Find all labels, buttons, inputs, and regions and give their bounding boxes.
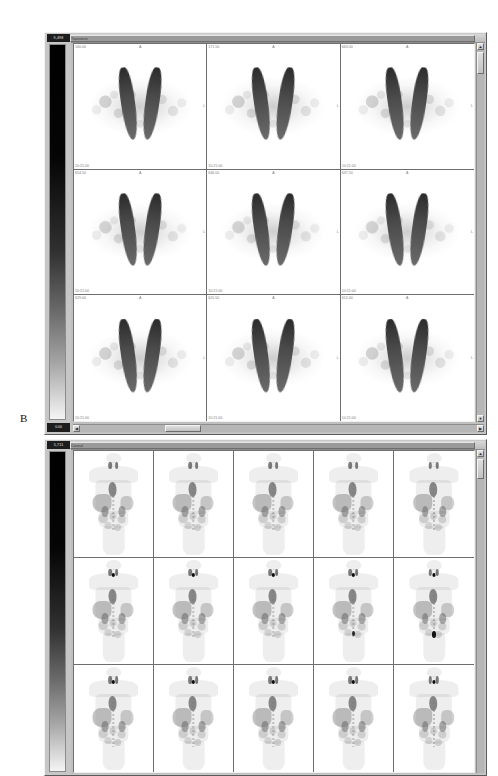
image-cell[interactable]: 654.50AL10:21:00: [74, 170, 207, 296]
bowel-uptake: [177, 512, 210, 534]
whole-body-outline: [409, 453, 459, 555]
organ-uptake-layer: [169, 453, 218, 555]
transverse-colorbar-min-label: 0.00: [47, 423, 70, 432]
image-cell[interactable]: [394, 665, 474, 772]
image-cell[interactable]: 629.00AL10:21:00: [74, 295, 207, 421]
image-cell[interactable]: 160.00AL10:21:00: [74, 44, 207, 170]
transverse-slice-image: [207, 170, 339, 295]
coronal-slice-image: [74, 451, 153, 557]
lung-uptake-region: [387, 315, 427, 395]
coronal-slice-image: [154, 451, 233, 557]
scroll-left-arrow-icon[interactable]: ◀: [73, 425, 80, 432]
organ-uptake-layer: [329, 453, 378, 555]
transverse-slice-image: [341, 44, 474, 169]
transverse-slice-image: [74, 295, 206, 421]
organ-uptake-layer: [89, 560, 138, 662]
salivary-uptake: [347, 462, 360, 469]
scroll-up-arrow-icon[interactable]: ▲: [477, 43, 484, 50]
coronal-slice-image: [314, 451, 393, 557]
lung-uptake-region: [120, 190, 160, 270]
transverse-viewer-window[interactable]: Transverse 9,498 0.00 160.00AL10:21:0017…: [44, 32, 487, 435]
bowel-uptake: [337, 619, 370, 641]
lung-uptake-region: [387, 190, 427, 270]
organ-uptake-layer: [329, 560, 378, 662]
image-cell[interactable]: [234, 451, 314, 558]
image-cell[interactable]: [394, 558, 474, 665]
lung-uptake-region: [387, 64, 427, 144]
lung-uptake-region: [254, 190, 294, 270]
image-cell[interactable]: 620.50AL10:21:00: [207, 295, 340, 421]
scroll-up-arrow-icon[interactable]: ▲: [477, 450, 484, 457]
image-cell[interactable]: [234, 558, 314, 665]
coronal-vertical-scroll-thumb[interactable]: [477, 459, 484, 479]
coronal-slice-image: [154, 665, 233, 772]
whole-body-outline: [409, 560, 459, 662]
coronal-slice-image: [314, 665, 393, 772]
transverse-image-grid: 160.00AL10:21:00171.50AL10:21:00663.00AL…: [74, 44, 474, 421]
image-cell[interactable]: [314, 558, 394, 665]
transverse-image-grid-frame[interactable]: 160.00AL10:21:00171.50AL10:21:00663.00AL…: [73, 43, 475, 422]
whole-body-outline: [249, 560, 298, 662]
bowel-uptake: [257, 619, 290, 641]
bowel-uptake: [97, 727, 130, 750]
image-cell[interactable]: [314, 451, 394, 558]
lung-uptake-region: [120, 315, 160, 395]
organ-uptake-layer: [249, 560, 298, 662]
image-cell[interactable]: 612.00AL10:21:00: [341, 295, 474, 421]
panel-letter-b: B: [20, 412, 27, 424]
whole-body-outline: [409, 667, 459, 770]
image-cell[interactable]: [74, 665, 154, 772]
image-cell[interactable]: [74, 451, 154, 558]
image-cell[interactable]: [314, 665, 394, 772]
transverse-horizontal-scrollbar[interactable]: ◀ ▶: [73, 424, 484, 432]
image-cell[interactable]: [234, 665, 314, 772]
scroll-right-arrow-icon[interactable]: ▶: [477, 425, 484, 432]
lung-uptake-region: [120, 64, 160, 144]
image-cell[interactable]: 637.50AL10:21:00: [341, 170, 474, 296]
coronal-viewer-inner: Coronal 5,711 ▲: [46, 441, 485, 774]
organ-uptake-layer: [409, 560, 459, 662]
coronal-viewer-window[interactable]: Coronal 5,711 ▲: [44, 439, 487, 776]
whole-body-outline: [249, 453, 298, 555]
scroll-down-arrow-icon[interactable]: ▼: [477, 415, 484, 422]
whole-body-outline: [329, 560, 378, 662]
image-cell[interactable]: 663.00AL10:21:00: [341, 44, 474, 170]
coronal-colorbar-ramp[interactable]: [49, 451, 66, 772]
bowel-uptake: [337, 512, 370, 534]
coronal-slice-image: [154, 558, 233, 664]
image-cell[interactable]: [74, 558, 154, 665]
whole-body-outline: [249, 667, 298, 770]
image-cell[interactable]: 171.50AL10:21:00: [207, 44, 340, 170]
coronal-slice-image: [74, 665, 153, 772]
transverse-vertical-scrollbar[interactable]: ▲ ▼: [476, 43, 484, 422]
coronal-slice-image: [314, 558, 393, 664]
bowel-uptake: [257, 512, 290, 534]
image-cell[interactable]: [154, 665, 234, 772]
organ-uptake-layer: [409, 667, 459, 770]
bowel-uptake: [257, 727, 290, 750]
whole-body-outline: [89, 667, 138, 770]
image-cell[interactable]: [154, 451, 234, 558]
lung-uptake-region: [254, 315, 294, 395]
transverse-horizontal-scroll-thumb[interactable]: [165, 425, 201, 432]
transverse-slice-image: [207, 295, 339, 421]
coronal-vertical-scrollbar[interactable]: ▲: [476, 450, 484, 773]
transverse-viewer-inner: Transverse 9,498 0.00 160.00AL10:21:0017…: [46, 34, 485, 433]
whole-body-outline: [169, 667, 218, 770]
organ-uptake-layer: [249, 453, 298, 555]
transverse-slice-image: [74, 170, 206, 295]
transverse-vertical-scroll-thumb[interactable]: [477, 52, 484, 74]
whole-body-outline: [169, 560, 218, 662]
coronal-colorbar-max-label: 5,711: [47, 441, 70, 449]
organ-uptake-layer: [169, 667, 218, 770]
image-cell[interactable]: 646.00AL10:21:00: [207, 170, 340, 296]
coronal-slice-image: [234, 451, 313, 557]
transverse-colorbar-ramp[interactable]: [49, 44, 66, 420]
image-cell[interactable]: [394, 451, 474, 558]
salivary-uptake: [107, 462, 120, 469]
whole-body-outline: [89, 560, 138, 662]
coronal-image-grid-frame[interactable]: [73, 450, 475, 773]
image-cell[interactable]: [154, 558, 234, 665]
transverse-window-titlebox: Transverse: [70, 35, 475, 42]
lung-uptake-region: [254, 64, 294, 144]
